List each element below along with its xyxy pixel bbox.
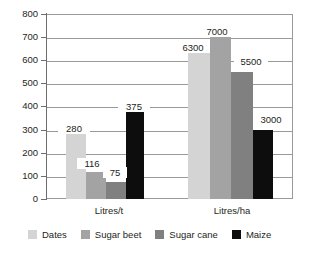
y-tick-100 (41, 176, 46, 177)
y-tick-200 (41, 153, 46, 154)
value-label-maize-litres-ha: 3000 (254, 114, 288, 125)
bar-chart-figure: 800 700 600 500 400 300 200 100 0 280 11… (0, 0, 311, 256)
legend-swatch-icon-sugar-beet (81, 230, 90, 239)
bar-sugarcane-litres-t (106, 182, 126, 199)
value-label-dates-litres-ha: 6300 (176, 42, 210, 53)
x-category-label-litres-ha: Litres/ha (196, 205, 268, 216)
value-label-maize-litres-t: 375 (118, 101, 150, 112)
y-tick-500 (41, 83, 46, 84)
y-tick-label-600: 600 (0, 55, 38, 65)
bar-dates-litres-ha (188, 53, 210, 199)
y-tick-label-300: 300 (0, 125, 38, 135)
y-tick-0 (41, 199, 46, 200)
x-category-label-litres-t: Litres/t (74, 205, 144, 216)
y-tick-label-200: 200 (0, 148, 38, 158)
legend-item-maize[interactable]: Maize (232, 229, 271, 240)
legend: Dates Sugar beet Sugar cane Maize (28, 229, 285, 240)
y-tick-700 (41, 37, 46, 38)
y-tick-600 (41, 60, 46, 61)
bar-sugarbeet-litres-ha (210, 37, 231, 199)
bar-sugarcane-litres-ha (231, 72, 253, 199)
bar-maize-litres-t (126, 112, 144, 199)
legend-label-sugar-cane: Sugar cane (169, 229, 218, 240)
legend-swatch-icon-dates (28, 230, 37, 239)
legend-item-dates[interactable]: Dates (28, 229, 67, 240)
value-label-sugarbeet-litres-ha: 7000 (200, 26, 234, 37)
y-tick-label-500: 500 (0, 78, 38, 88)
y-tick-label-400: 400 (0, 101, 38, 111)
y-tick-400 (41, 106, 46, 107)
value-label-sugarcane-litres-t: 75 (103, 167, 127, 178)
y-axis-line (46, 13, 47, 200)
y-tick-label-700: 700 (0, 32, 38, 42)
legend-item-sugar-cane[interactable]: Sugar cane (155, 229, 218, 240)
legend-item-sugar-beet[interactable]: Sugar beet (81, 229, 141, 240)
y-tick-label-100: 100 (0, 171, 38, 181)
value-label-dates-litres-t: 280 (58, 123, 90, 134)
y-tick-label-0: 0 (0, 194, 38, 204)
legend-label-dates: Dates (42, 229, 67, 240)
y-tick-800 (41, 14, 46, 15)
y-tick-300 (41, 130, 46, 131)
value-label-sugarcane-litres-ha: 5500 (234, 56, 268, 67)
bars-layer (47, 14, 292, 199)
legend-label-sugar-beet: Sugar beet (95, 229, 141, 240)
y-tick-label-800: 800 (0, 9, 38, 19)
bar-maize-litres-ha (253, 130, 273, 199)
legend-swatch-icon-sugar-cane (155, 230, 164, 239)
legend-swatch-icon-maize (232, 230, 241, 239)
legend-label-maize: Maize (246, 229, 271, 240)
